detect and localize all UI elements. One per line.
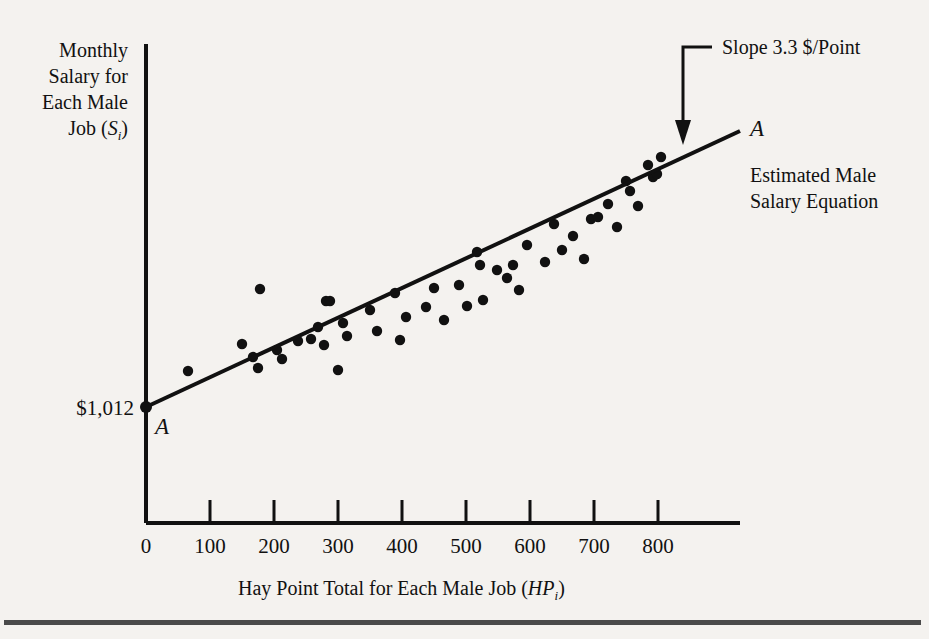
data-point (603, 199, 613, 209)
data-point (462, 301, 472, 311)
x-tick-label-500: 500 (450, 534, 482, 558)
data-point (429, 283, 439, 293)
svg-text:Hay Point Total for Each Male: Hay Point Total for Each Male Job (HPi) (238, 577, 565, 603)
data-point (478, 295, 488, 305)
intercept-point (140, 401, 152, 413)
line-label-right: A (748, 116, 765, 141)
data-point (333, 365, 343, 375)
data-point (421, 302, 431, 312)
data-point (522, 240, 532, 250)
figure-container: 0 100 200 300 400 500 600 700 800 Hay Po… (0, 0, 929, 639)
data-point (540, 257, 550, 267)
data-point (514, 285, 524, 295)
axis-group (146, 44, 740, 523)
data-point (401, 312, 411, 322)
data-point (643, 160, 653, 170)
scatter-chart: 0 100 200 300 400 500 600 700 800 Hay Po… (0, 0, 929, 639)
bottom-rule (4, 620, 921, 625)
data-point (557, 245, 567, 255)
x-tick-label-600: 600 (514, 534, 546, 558)
line-label-left: A (153, 414, 170, 439)
x-tick-label-0: 0 (141, 534, 152, 558)
data-point (568, 231, 578, 241)
data-point (454, 280, 464, 290)
y-intercept-label: $1,012 (76, 396, 134, 420)
x-axis-title: Hay Point Total for Each Male Job (HPi) (238, 577, 565, 603)
data-point (237, 339, 247, 349)
y-axis-title-line-3: Each Male (42, 91, 128, 113)
y-axis-title-line-4: Job (Si) (68, 117, 128, 143)
equation-caption: Estimated Male Salary Equation (750, 164, 878, 213)
data-point (593, 212, 603, 222)
x-axis-title-prefix: Hay Point Total for Each Male Job ( (238, 577, 528, 600)
x-tick-labels: 0 100 200 300 400 500 600 700 800 (141, 534, 674, 558)
regression-line-group: A A (140, 116, 765, 439)
x-tick-label-100: 100 (194, 534, 226, 558)
data-point (633, 201, 643, 211)
regression-line (146, 131, 740, 407)
slope-leader-line (683, 47, 712, 128)
data-point (372, 326, 382, 336)
x-tick-label-300: 300 (322, 534, 354, 558)
equation-caption-line-2: Salary Equation (750, 190, 878, 213)
x-tick-label-700: 700 (578, 534, 610, 558)
data-point (183, 366, 193, 376)
slope-annotation: Slope 3.3 $/Point (675, 36, 861, 145)
x-tick-label-800: 800 (642, 534, 674, 558)
y-axis-title-line-1: Monthly (59, 39, 128, 62)
data-point (395, 335, 405, 345)
y-axis-title-line-2: Salary for (49, 65, 129, 88)
data-point (492, 265, 502, 275)
x-tick-marks (146, 500, 658, 523)
data-point (439, 315, 449, 325)
x-axis-title-suffix: ) (558, 577, 565, 600)
scatter-points (183, 152, 666, 376)
data-point (508, 260, 518, 270)
x-axis-title-var: HP (527, 577, 555, 599)
slope-note-label: Slope 3.3 $/Point (722, 36, 861, 59)
data-point (475, 260, 485, 270)
data-point (306, 334, 316, 344)
data-point (325, 296, 335, 306)
data-point (277, 354, 287, 364)
x-tick-label-400: 400 (386, 534, 418, 558)
slope-arrowhead (675, 120, 691, 145)
data-point (625, 186, 635, 196)
data-point (579, 254, 589, 264)
data-point (342, 331, 352, 341)
data-point (656, 152, 666, 162)
data-point (253, 363, 263, 373)
data-point (502, 273, 512, 283)
equation-caption-line-1: Estimated Male (750, 164, 876, 186)
x-tick-label-200: 200 (258, 534, 290, 558)
data-point (612, 222, 622, 232)
data-point (255, 284, 265, 294)
data-point (319, 340, 329, 350)
y-axis-title: Monthly Salary for Each Male Job (Si) (42, 39, 128, 143)
